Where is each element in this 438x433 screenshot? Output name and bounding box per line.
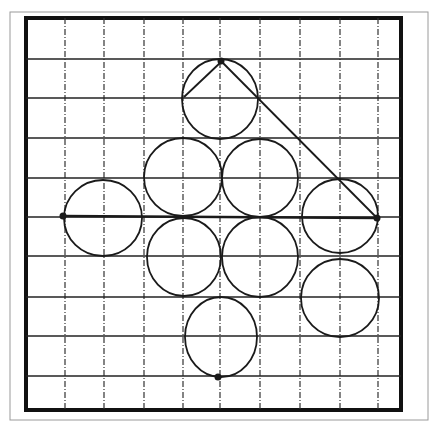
bottom-dot	[215, 374, 222, 381]
circle	[64, 180, 142, 256]
right-dot	[374, 215, 381, 222]
puzzle-diagram	[0, 0, 438, 433]
inner-frame	[26, 18, 401, 410]
circle	[147, 218, 221, 296]
top-dot	[218, 58, 225, 65]
circle	[185, 297, 257, 377]
left-dot	[60, 213, 67, 220]
left-slant-stroke	[184, 62, 221, 97]
diagonal-line	[221, 61, 377, 218]
vertical-grid-lines	[65, 18, 378, 410]
